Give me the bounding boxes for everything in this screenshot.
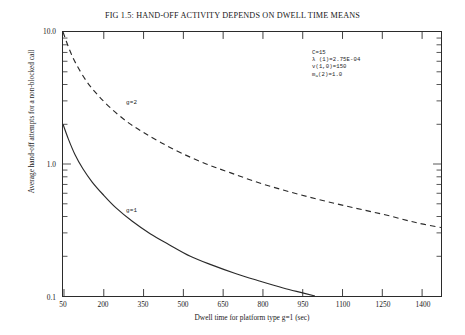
plot-area [62, 31, 442, 297]
y-tick-label-10: 10.0 [16, 27, 56, 36]
x-tick-label-950: 950 [283, 300, 323, 309]
x-axis-label: Dwell time for platform type g=1 (sec) [62, 313, 442, 322]
series-label-g1: g=1 [126, 207, 137, 214]
annotation-line-v: v(1,0)=150 [312, 63, 360, 70]
series-label-g2: g=2 [126, 99, 137, 106]
x-tick-label-500: 500 [163, 300, 203, 309]
y-axis-ticks [63, 38, 441, 256]
annotation-line-lambda: λ (1)=2.75E-04 [312, 56, 360, 63]
x-tick-label-1400: 1400 [403, 300, 443, 309]
x-tick-label-1100: 1100 [323, 300, 363, 309]
x-tick-label-650: 650 [203, 300, 243, 309]
plot-svg [63, 32, 441, 296]
x-tick-label-200: 200 [83, 300, 123, 309]
annotation-m-tail: (2)=1.0 [318, 71, 342, 78]
series-line-g1 [63, 124, 315, 296]
page-title: FIG 1.5: HAND-OFF ACTIVITY DEPENDS ON DW… [0, 11, 465, 20]
y-tick-label-1: 1.0 [16, 160, 56, 169]
annotation-line-m: ma(2)=1.0 [312, 71, 360, 81]
x-tick-label-50: 50 [43, 300, 83, 309]
x-tick-label-350: 350 [123, 300, 163, 309]
series-line-g2 [63, 32, 441, 228]
figure-container: FIG 1.5: HAND-OFF ACTIVITY DEPENDS ON DW… [0, 0, 465, 335]
x-tick-label-800: 800 [243, 300, 283, 309]
annotation-line-c: C=15 [312, 49, 360, 56]
x-tick-label-1250: 1250 [363, 300, 403, 309]
y-axis-label: Average hand-off attempts for a non-bloc… [27, 7, 36, 237]
x-axis-ticks-top [104, 32, 422, 39]
parameter-annotation: C=15 λ (1)=2.75E-04 v(1,0)=150 ma(2)=1.0 [312, 49, 360, 80]
x-axis-ticks [64, 289, 422, 296]
